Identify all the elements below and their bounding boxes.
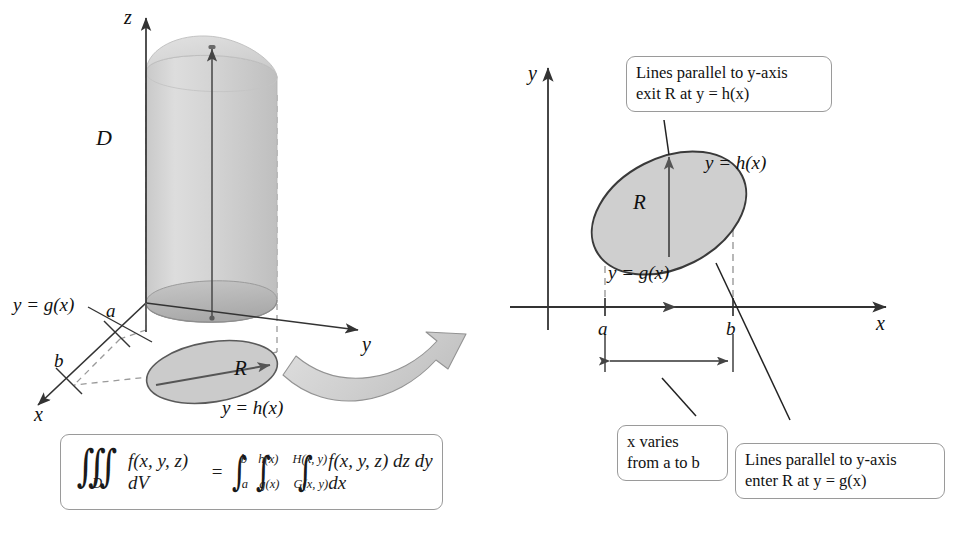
equals-sign: = bbox=[212, 461, 223, 483]
integral-glyph-3: ∫ bbox=[298, 460, 313, 483]
formula-content: ∭ D f(x, y, z) dV = b ∫ a h(x) ∫ g(x) H(… bbox=[61, 435, 442, 509]
curve-label-h-3d: y = h(x) bbox=[222, 397, 283, 418]
callout-x-varies-line2: from a to b bbox=[627, 452, 718, 473]
callout-enter-line1: Lines parallel to y-axis bbox=[745, 449, 935, 470]
transition-ribbon-arrow bbox=[283, 332, 466, 401]
integral-outer-x: b ∫ a bbox=[229, 452, 249, 491]
solid-sample-end-dot bbox=[209, 45, 216, 49]
triple-integral-formula-box: ∭ D f(x, y, z) dV = b ∫ a h(x) ∫ g(x) H(… bbox=[60, 434, 443, 510]
axis-z-label: z bbox=[124, 6, 132, 28]
tick-a-3d bbox=[104, 321, 130, 347]
integral-glyph-1: ∫ bbox=[232, 460, 247, 483]
solid-sample-start-dot bbox=[209, 315, 214, 320]
callout-x-varies-line1: x varies bbox=[627, 431, 718, 452]
callout-enter-line2: enter R at y = g(x) bbox=[745, 470, 935, 491]
tick-label-a-2d: a bbox=[598, 318, 608, 339]
tick-label-b-2d: b bbox=[726, 318, 736, 339]
x-range-measure bbox=[605, 334, 733, 372]
curve-label-g-2d: y = g(x) bbox=[608, 262, 669, 283]
axis-y-2d-label: y bbox=[528, 62, 537, 84]
callout-exit-region[interactable]: Lines parallel to y-axis exit R at y = h… bbox=[626, 56, 832, 112]
rhs-integrand: f(x, y, z) dz dy dx bbox=[328, 450, 437, 494]
lhs-integrand: f(x, y, z) dV bbox=[128, 450, 202, 494]
callout-exit-line2: exit R at y = h(x) bbox=[636, 83, 822, 104]
integral-middle-y: h(x) ∫ g(x) bbox=[248, 452, 279, 491]
tick-label-b-3d: b bbox=[54, 350, 64, 371]
region-label-R-2d: R bbox=[633, 191, 646, 215]
axis-x-3d-label: x bbox=[34, 403, 43, 425]
curve-label-g-3d: y = g(x) bbox=[13, 294, 74, 315]
lhs-triple-integral: ∭ D bbox=[71, 452, 123, 491]
figure-root: z D y x y = g(x) a b R y = h(x) y x R y … bbox=[0, 0, 959, 537]
curve-label-h-2d: y = h(x) bbox=[705, 152, 766, 173]
callout-exit-line1: Lines parallel to y-axis bbox=[636, 62, 822, 83]
integral-inner-z: H(x, y) ∫ G(x, y) bbox=[282, 452, 328, 491]
callout-x-varies[interactable]: x varies from a to b bbox=[617, 425, 728, 481]
callout-enter-region[interactable]: Lines parallel to y-axis enter R at y = … bbox=[735, 443, 945, 499]
tick-label-a-3d: a bbox=[106, 300, 116, 321]
triple-integral-glyph: ∭ bbox=[77, 452, 118, 479]
region-label-R-3d: R bbox=[234, 357, 247, 381]
axis-x-2d-label: x bbox=[876, 312, 885, 334]
axis-y-3d-label: y bbox=[362, 333, 371, 355]
solid-label-D: D bbox=[96, 126, 112, 151]
integral-glyph-2: ∫ bbox=[256, 460, 271, 483]
